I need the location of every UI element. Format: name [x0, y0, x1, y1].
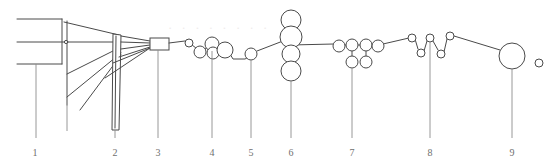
callout-label-4: 4: [210, 148, 215, 158]
roller-5: [217, 42, 233, 58]
roller-small-1: [185, 39, 193, 47]
web-span-n: [444, 39, 447, 52]
left-frame-group: [17, 19, 68, 138]
web-span-m: [433, 41, 438, 50]
roller-large-final: [499, 43, 525, 69]
callout-label-8: 8: [428, 148, 433, 158]
callout-label-6: 6: [289, 148, 294, 158]
roller-small-7: [535, 59, 543, 67]
roller-small-4: [426, 34, 434, 42]
callout-label-1: 1: [33, 148, 38, 158]
fan-line-2: [121, 42, 150, 43]
roller-11: [360, 56, 372, 68]
roller-small-3: [417, 49, 425, 57]
roller-2: [194, 46, 206, 58]
junction-box-group: [150, 38, 169, 50]
web-span-e: [257, 41, 283, 51]
schematic-figure: [0, 0, 548, 166]
roller-12: [372, 40, 384, 52]
roller-stack-4: [281, 61, 301, 81]
tower-mast-group: [112, 34, 121, 130]
roller-small-5: [437, 50, 445, 58]
web-span-j: [383, 38, 409, 44]
frame-pivot-node: [64, 40, 67, 43]
callout-label-9: 9: [510, 148, 515, 158]
tower-body: [112, 34, 121, 130]
web-span-a: [169, 41, 185, 43]
roller-small-6: [446, 32, 454, 40]
roller-small-2: [408, 34, 416, 42]
callout-label-2: 2: [113, 148, 118, 158]
guy-wire-1: [64, 22, 119, 35]
junction-box: [150, 38, 169, 50]
roller-6: [245, 48, 257, 60]
diagram-canvas: · · · · · · · ·: [0, 0, 548, 166]
web-span-o: [454, 36, 500, 50]
web-span-l: [424, 41, 427, 51]
callout-label-7: 7: [350, 148, 355, 158]
roller-7: [333, 40, 345, 52]
callout-label-3: 3: [156, 148, 161, 158]
roller-group: [185, 10, 543, 81]
web-span-d: [230, 54, 247, 59]
roller-8: [346, 39, 358, 51]
roller-10: [360, 39, 372, 51]
roller-9: [346, 56, 358, 68]
fan-line-6: [105, 48, 150, 78]
roller-stack-3: [282, 45, 300, 63]
fan-line-1: [121, 36, 150, 41]
callout-label-5: 5: [249, 148, 254, 158]
